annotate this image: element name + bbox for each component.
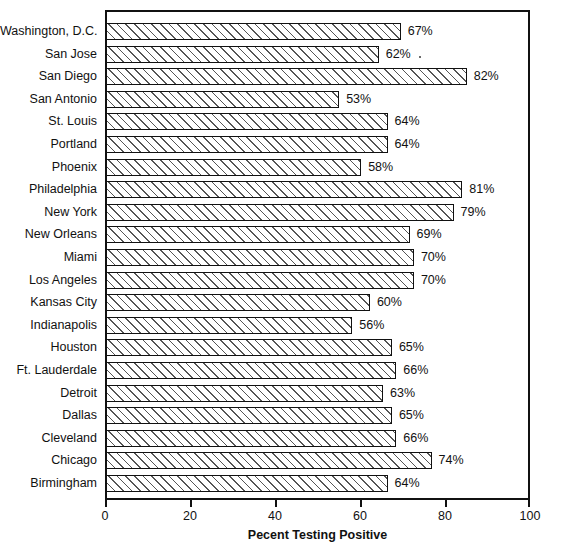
- category-label: San Jose: [0, 45, 97, 63]
- bar-row: 58%: [105, 156, 530, 179]
- x-tick: [105, 500, 107, 507]
- bar: [106, 23, 401, 40]
- x-axis-title: Pecent Testing Positive: [105, 528, 530, 542]
- bar: [106, 113, 388, 130]
- bar-value-label: 65%: [399, 338, 424, 356]
- x-tick-label: 60: [353, 508, 367, 524]
- bar-row: 53%: [105, 88, 530, 111]
- x-tick-label: 100: [520, 508, 541, 524]
- bar-value-label: 70%: [421, 271, 446, 289]
- bar-row: 65%: [105, 404, 530, 427]
- bar: [106, 159, 361, 176]
- bar-row: 79%: [105, 201, 530, 224]
- bar: [106, 226, 410, 243]
- bar-row: 60%: [105, 291, 530, 314]
- bar: [106, 294, 370, 311]
- bar-value-label: 69%: [417, 225, 442, 243]
- x-tick-label: 40: [268, 508, 282, 524]
- bar-row: 64%: [105, 472, 530, 495]
- category-label: Indianapolis: [0, 316, 97, 334]
- category-label: Ft. Lauderdale: [0, 361, 97, 379]
- bar-row: 70%: [105, 269, 530, 292]
- bar-row: 81%: [105, 178, 530, 201]
- bar: [106, 272, 414, 289]
- bar-row: 64%: [105, 133, 530, 156]
- x-tick: [360, 500, 362, 507]
- category-label: San Diego: [0, 67, 97, 85]
- category-label: Kansas City: [0, 293, 97, 311]
- bar: [106, 181, 462, 198]
- category-label: St. Louis: [0, 112, 97, 130]
- bar-value-label: 70%: [421, 248, 446, 266]
- category-axis-labels: Washington, D.C.San JoseSan DiegoSan Ant…: [0, 10, 101, 500]
- bar: [106, 204, 454, 221]
- x-tick-label: 80: [438, 508, 452, 524]
- category-label: Washington, D.C.: [0, 22, 97, 40]
- horizontal-bar-chart: Washington, D.C.San JoseSan DiegoSan Ant…: [0, 0, 570, 556]
- bar: [106, 385, 383, 402]
- bar-value-label: 64%: [395, 135, 420, 153]
- bar: [106, 407, 392, 424]
- bar-value-label: 53%: [346, 90, 371, 108]
- x-tick-label: 0: [102, 508, 109, 524]
- category-label: Philadelphia: [0, 180, 97, 198]
- bar-row: 82%: [105, 65, 530, 88]
- bar: [106, 68, 467, 85]
- bar-row: 56%: [105, 314, 530, 337]
- x-tick-label: 20: [183, 508, 197, 524]
- category-label: Los Angeles: [0, 271, 97, 289]
- category-label: Phoenix: [0, 158, 97, 176]
- bar-value-label: 79%: [461, 203, 486, 221]
- bar: [106, 339, 392, 356]
- x-tick: [445, 500, 447, 507]
- bar-row: 66%: [105, 427, 530, 450]
- x-tick: [190, 500, 192, 507]
- category-label: Detroit: [0, 384, 97, 402]
- bar-value-label: 67%: [408, 22, 433, 40]
- bar: [106, 317, 352, 334]
- bar-value-label: 81%: [469, 180, 494, 198]
- bar-row: 62%: [105, 43, 530, 66]
- bar-row: 63%: [105, 382, 530, 405]
- bar: [106, 46, 379, 63]
- category-label: Chicago: [0, 451, 97, 469]
- category-label: New York: [0, 203, 97, 221]
- bar-value-label: 60%: [377, 293, 402, 311]
- bar-value-label: 66%: [403, 429, 428, 447]
- category-label: Miami: [0, 248, 97, 266]
- x-axis-tick-labels: 020406080100: [0, 508, 570, 526]
- category-label: New Orleans: [0, 225, 97, 243]
- bar-value-label: 82%: [474, 67, 499, 85]
- bar-row: 65%: [105, 336, 530, 359]
- category-label: Cleveland: [0, 429, 97, 447]
- category-label: San Antonio: [0, 90, 97, 108]
- bar-value-label: 65%: [399, 406, 424, 424]
- bar-row: 70%: [105, 246, 530, 269]
- bar: [106, 91, 339, 108]
- bar: [106, 249, 414, 266]
- bar-row: 74%: [105, 449, 530, 472]
- x-tick: [275, 500, 277, 507]
- x-tick: [528, 500, 530, 507]
- bar-value-label: 64%: [395, 112, 420, 130]
- bar-value-label: 74%: [439, 451, 464, 469]
- category-label: Portland: [0, 135, 97, 153]
- bar-value-label: 56%: [359, 316, 384, 334]
- bar: [106, 452, 432, 469]
- bar-row: 66%: [105, 359, 530, 382]
- x-axis-ticks: [105, 500, 530, 508]
- scan-speck-artifact: [419, 56, 421, 58]
- bar-value-label: 64%: [395, 474, 420, 492]
- category-label: Birmingham: [0, 474, 97, 492]
- bars-layer: 67%62%82%53%64%64%58%81%79%69%70%70%60%5…: [105, 10, 530, 500]
- bar-value-label: 63%: [390, 384, 415, 402]
- category-label: Houston: [0, 338, 97, 356]
- bar-value-label: 58%: [368, 158, 393, 176]
- bar: [106, 475, 388, 492]
- bar: [106, 430, 396, 447]
- bar-value-label: 62%: [386, 45, 411, 63]
- bar: [106, 362, 396, 379]
- bar-row: 67%: [105, 20, 530, 43]
- bar: [106, 136, 388, 153]
- bar-value-label: 66%: [403, 361, 428, 379]
